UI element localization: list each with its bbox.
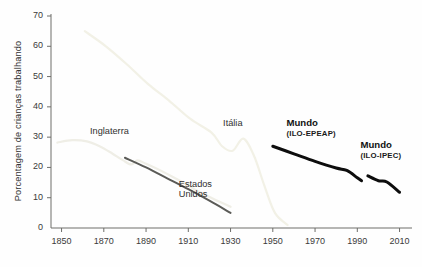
x-tick-label: 1890 [128, 236, 164, 246]
y-tick-label: 50 [21, 71, 43, 81]
annotation-iloipec: (ILO-IPEC) [360, 151, 401, 160]
y-axis-title: Porcentagem de crianças trabalhando [13, 41, 23, 202]
y-tick-label: 30 [21, 131, 43, 141]
y-tick-label: 40 [21, 101, 43, 111]
annotation-estados: Estados [179, 179, 212, 189]
y-tick-label: 20 [21, 161, 43, 171]
y-tick-label: 60 [21, 40, 43, 50]
annotation-iloepeap: (ILO-EPEAP) [286, 129, 335, 138]
x-tick-label: 1930 [213, 236, 249, 246]
annotation-mundo: Mundo [286, 117, 317, 128]
annotation-itlia: Itália [223, 118, 242, 128]
x-tick-label: 1970 [297, 236, 333, 246]
annotation-unidos: Unidos [179, 189, 208, 199]
chart-plot-area [0, 0, 422, 267]
y-tick-label: 70 [21, 10, 43, 20]
annotation-mundo: Mundo [360, 139, 391, 150]
annotation-inglaterra: Inglaterra [90, 126, 129, 136]
x-tick-label: 1910 [170, 236, 206, 246]
x-tick-label: 1950 [255, 236, 291, 246]
x-tick-label: 1990 [339, 236, 375, 246]
x-tick-label: 1850 [44, 236, 80, 246]
series-line-4 [368, 176, 400, 192]
x-tick-label: 2010 [382, 236, 418, 246]
y-tick-label: 0 [21, 222, 43, 232]
y-tick-label: 10 [21, 192, 43, 202]
x-tick-label: 1870 [86, 236, 122, 246]
series-line-3 [273, 146, 362, 181]
chart-container: Porcentagem de crianças trabalhando 0102… [0, 0, 422, 267]
series-line-1 [125, 158, 231, 213]
